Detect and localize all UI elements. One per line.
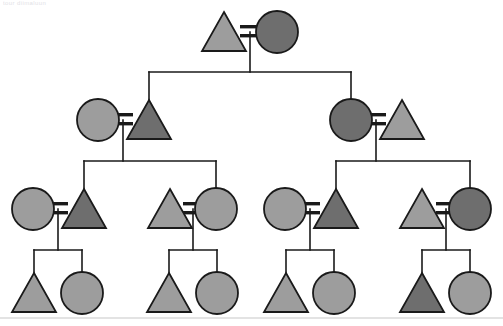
individual-III-6-male-affected	[314, 189, 358, 228]
individual-IV-2-female-unaffected	[61, 272, 103, 314]
individual-IV-3-male-unaffected	[147, 273, 191, 312]
individual-III-5-female-unaffected	[264, 188, 306, 230]
pedigree-figure: tour diimaluun	[0, 0, 503, 326]
individual-IV-8-female-unaffected	[449, 272, 491, 314]
individual-III-1-female-unaffected	[12, 188, 54, 230]
individual-IV-6-female-unaffected	[313, 272, 355, 314]
individual-III-7-male-unaffected	[400, 189, 444, 228]
individual-IV-1-male-unaffected	[12, 273, 56, 312]
individual-I-2-female-affected	[256, 11, 298, 53]
individual-II-4-male-unaffected	[380, 100, 424, 139]
connector-layer	[34, 32, 470, 280]
individual-I-1-male-unaffected	[202, 12, 246, 51]
individual-II-1-female-unaffected	[77, 99, 119, 141]
individual-III-8-female-affected	[449, 188, 491, 230]
individual-III-4-female-unaffected	[195, 188, 237, 230]
individual-III-2-male-affected	[62, 189, 106, 228]
individual-IV-5-male-unaffected	[264, 273, 308, 312]
individual-II-2-male-affected	[127, 100, 171, 139]
individual-II-3-female-affected	[330, 99, 372, 141]
pedigree-diagram	[0, 0, 503, 326]
individual-IV-4-female-unaffected	[196, 272, 238, 314]
individual-IV-7-male-affected	[400, 273, 444, 312]
individual-III-3-male-unaffected	[148, 189, 192, 228]
